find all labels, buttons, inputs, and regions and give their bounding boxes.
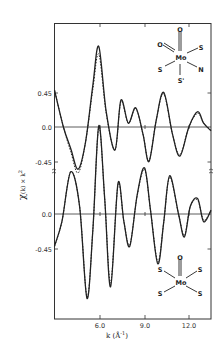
atom-s: S xyxy=(158,266,163,274)
atom-mo: Mo xyxy=(176,279,187,287)
curves xyxy=(55,46,212,299)
atom-mo: Mo xyxy=(176,54,187,62)
x-tick-label: 9.0 xyxy=(140,322,150,330)
exafs-chart: 0.45 0.0 -0.45 0.0 -0.45 6.0 9.0 12.0 k … xyxy=(0,0,224,356)
x-tick-label: 12.0 xyxy=(182,322,196,330)
x-ticks xyxy=(100,24,189,320)
atom-s: S xyxy=(158,66,163,74)
atom-s: S xyxy=(198,266,203,274)
atom-o: O xyxy=(177,254,183,262)
top-y-tick-label: 0.45 xyxy=(38,90,52,98)
bottom-y-tick-label: 0.0 xyxy=(42,211,52,219)
top-y-tick-label: -0.45 xyxy=(35,159,52,167)
atom-s: S xyxy=(199,44,204,52)
bottom-experimental-curve xyxy=(55,125,212,298)
molecule-bottom: O S S Mo S S xyxy=(158,254,203,298)
bottom-y-tick-label: -0.45 xyxy=(35,246,52,254)
top-experimental-curve xyxy=(55,46,212,169)
atom-s-prime: S' xyxy=(178,77,185,85)
atom-n: N xyxy=(198,66,203,74)
bottom-fit-curve xyxy=(55,127,212,297)
plot-frame xyxy=(55,24,212,320)
y-axis-label: χ(k) × k2 xyxy=(16,170,27,200)
atom-s: S xyxy=(158,290,163,298)
atom-o: O xyxy=(157,41,163,49)
axis-break-marks xyxy=(52,169,213,173)
atom-s: S xyxy=(198,290,203,298)
molecule-top: O O S Mo S N S' xyxy=(157,26,203,85)
x-tick-label: 6.0 xyxy=(95,322,105,330)
atom-o: O xyxy=(177,26,183,34)
top-y-tick-label: 0.0 xyxy=(42,124,52,132)
top-fit-curve xyxy=(55,54,212,173)
x-axis-label: k (Å-1) xyxy=(106,330,128,340)
